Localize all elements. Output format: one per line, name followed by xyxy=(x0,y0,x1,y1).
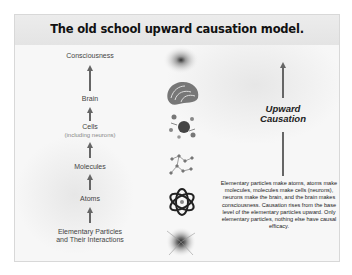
level-sublabel: and Their Interactions xyxy=(35,236,145,244)
level-molecules: Molecules xyxy=(35,163,145,171)
level-label: Brain xyxy=(82,95,98,102)
level-label: Atoms xyxy=(80,195,100,202)
consciousness-glow-image xyxy=(163,45,199,75)
description-text: Elementary particles make atoms, atoms m… xyxy=(218,180,340,230)
molecule-image xyxy=(167,151,197,179)
slide-title: The old school upward causation model. xyxy=(15,22,339,36)
level-label: Elementary Particles xyxy=(35,228,145,236)
level-atoms: Atoms xyxy=(35,195,145,203)
side-label-line2: Causation xyxy=(253,114,313,124)
level-elementary-particles: Elementary Particles and Their Interacti… xyxy=(35,228,145,244)
title-bar: The old school upward causation model. xyxy=(15,15,339,45)
upward-causation-label: Upward Causation xyxy=(253,104,313,124)
particle-burst-image xyxy=(163,225,199,259)
level-sublabel: (including neurons) xyxy=(35,131,145,139)
level-cells: Cells (including neurons) xyxy=(35,123,145,139)
slide: The old school upward causation model. C… xyxy=(14,14,340,262)
level-brain: Brain xyxy=(35,95,145,103)
level-label: Consciousness xyxy=(66,52,113,59)
brain-image xyxy=(165,80,201,108)
level-label: Molecules xyxy=(74,163,106,170)
level-consciousness: Consciousness xyxy=(35,52,145,60)
level-label: Cells xyxy=(82,123,98,130)
cells-image xyxy=(165,111,201,141)
atom-image xyxy=(166,187,198,217)
